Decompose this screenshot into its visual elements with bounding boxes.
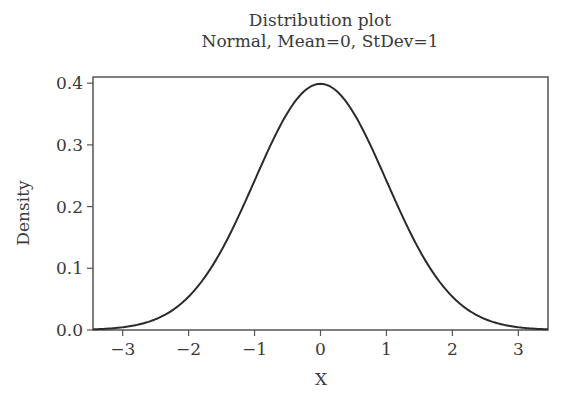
x-tick-label: 2 [447,339,458,359]
y-tick-label: 0.3 [56,135,83,155]
x-tick-label: −2 [176,339,201,359]
x-tick-label: 3 [513,339,524,359]
y-tick-label: 0.0 [56,320,83,340]
plot-area: 0.00.10.20.30.4−3−2−10123 [0,0,577,405]
x-tick-label: 0 [315,339,326,359]
density-curve [93,84,548,330]
y-axis-label: Density [13,180,33,245]
x-tick-label: 1 [381,339,392,359]
y-tick-label: 0.2 [56,197,83,217]
y-tick-label: 0.1 [56,258,83,278]
x-tick-label: −1 [242,339,267,359]
y-tick-label: 0.4 [56,73,83,93]
x-tick-label: −3 [110,339,135,359]
plot-frame [93,77,548,330]
x-axis-label: X [315,369,327,389]
